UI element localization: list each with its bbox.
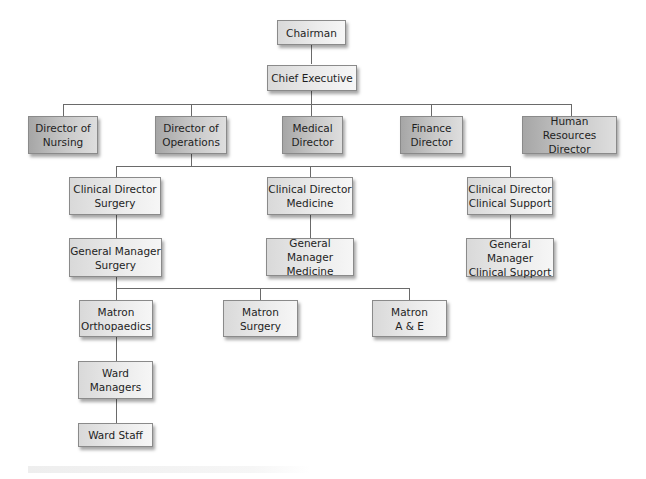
connector-to-finance: [431, 104, 432, 116]
node-chairman: Chairman: [277, 20, 346, 45]
node-general-manager-clinical-support: General Manager Clinical Support: [466, 238, 554, 277]
connector-cd-gm-surgery: [116, 215, 117, 238]
connector-to-matron-ortho: [116, 288, 117, 300]
connector-managers-staff: [116, 399, 117, 423]
connector-ceo-down: [311, 91, 312, 104]
connector-to-medical: [311, 104, 312, 116]
connector-directors-bar: [63, 104, 572, 105]
connector-cd-gm-support: [510, 215, 511, 238]
connector-to-matron-surgery: [260, 288, 261, 300]
footer-decorative-bar: [28, 466, 310, 473]
connector-to-nursing: [63, 104, 64, 116]
connector-to-cd-support: [510, 166, 511, 177]
node-general-manager-surgery: General Manager Surgery: [69, 238, 162, 277]
node-director-of-nursing: Director of Nursing: [28, 116, 98, 154]
node-ward-staff: Ward Staff: [78, 423, 153, 447]
connector-clinical-bar: [116, 166, 511, 167]
connector-ortho-ward-managers: [116, 337, 117, 361]
node-clinical-director-medicine: Clinical Director Medicine: [267, 177, 353, 215]
connector-chairman-ceo: [311, 45, 312, 64]
node-clinical-director-clinical-support: Clinical Director Clinical Support: [467, 177, 553, 215]
node-finance-director: Finance Director: [400, 116, 463, 154]
connector-to-operations: [191, 104, 192, 116]
node-general-manager-medicine: General Manager Medicine: [266, 238, 354, 276]
node-hr-director: Human Resources Director: [522, 116, 617, 154]
connector-matron-bar: [116, 288, 410, 289]
node-matron-surgery: Matron Surgery: [223, 300, 298, 337]
node-matron-ae: Matron A & E: [372, 300, 447, 337]
connector-operations-down: [191, 154, 192, 166]
node-director-of-operations: Director of Operations: [155, 116, 227, 154]
connector-to-matron-ae: [409, 288, 410, 300]
connector-gm-surgery-down: [116, 277, 117, 288]
node-clinical-director-surgery: Clinical Director Surgery: [69, 177, 161, 215]
connector-to-cd-medicine: [310, 166, 311, 177]
connector-to-cd-surgery: [116, 166, 117, 177]
connector-cd-gm-medicine: [310, 215, 311, 238]
node-matron-orthopaedics: Matron Orthopaedics: [79, 300, 153, 337]
node-medical-director: Medical Director: [282, 116, 343, 154]
node-chief-executive: Chief Executive: [267, 65, 357, 91]
node-ward-managers: Ward Managers: [78, 361, 153, 399]
